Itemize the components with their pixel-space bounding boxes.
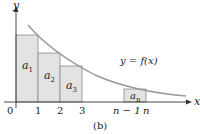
rect-a2-label: a2: [44, 70, 55, 84]
rect-a1-label: a1: [22, 60, 33, 74]
tick-n-minus-1: n − 1: [113, 106, 141, 116]
tick-0: 0: [7, 106, 13, 116]
tick-3: 3: [79, 106, 85, 116]
rect-an-label: an: [130, 91, 140, 104]
curve-label: y = f(x): [120, 56, 158, 66]
x-axis-arrow-icon: [186, 100, 192, 105]
y-axis-label: y: [13, 0, 19, 11]
figure-caption: (b): [93, 121, 107, 131]
x-axis-label: x: [194, 96, 200, 107]
tick-2: 2: [57, 106, 63, 116]
riemann-sum-figure: y x y = f(x) a1 a2 a3 an 0 1 2 3 n − 1 n…: [0, 0, 200, 134]
rect-a3-label: a3: [66, 80, 77, 94]
tick-1: 1: [35, 106, 41, 116]
tick-n: n: [143, 106, 149, 116]
